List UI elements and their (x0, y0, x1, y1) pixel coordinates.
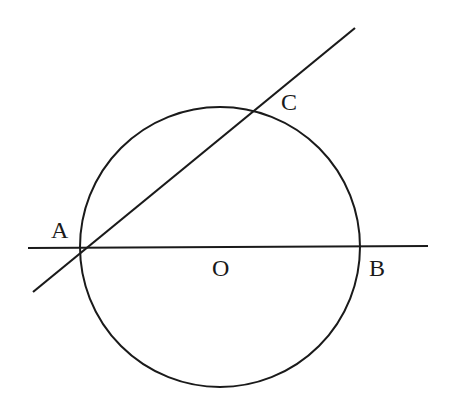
point-label-b: B (369, 255, 385, 281)
geometry-diagram: A B C O (0, 0, 449, 412)
center-label-o: O (212, 255, 229, 281)
point-label-c: C (281, 89, 297, 115)
secant-line-ac (33, 28, 355, 292)
point-label-a: A (51, 217, 69, 243)
diagram-svg: A B C O (0, 0, 449, 412)
